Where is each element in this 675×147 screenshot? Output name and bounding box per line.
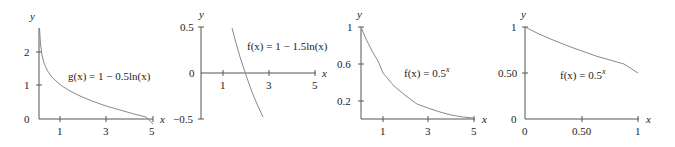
function-annotation: f(x) = 1 − 1.5ln(x) — [247, 40, 328, 53]
y-axis-label: y — [520, 8, 526, 20]
x-tick-label: 3 — [103, 125, 109, 137]
function-annotation: f(x) = 0.5x — [560, 67, 606, 82]
y-tick-label: 0.50 — [498, 67, 518, 79]
function-curve — [525, 27, 638, 73]
x-tick-label: 1 — [380, 125, 386, 137]
charts-canvas: y x 2 1 0 1 3 5 g(x) = 1 − 0.5ln(x) y x … — [0, 0, 675, 147]
x-axis-label: x — [645, 113, 651, 125]
y-tick-label: −0.5 — [173, 113, 193, 125]
y-tick-label: 1 — [347, 21, 353, 33]
x-tick-label: 1 — [635, 125, 641, 137]
y-tick-label: 1 — [24, 79, 30, 91]
chart-g-log: y x 2 1 0 1 3 5 g(x) = 1 − 0.5ln(x) — [24, 10, 165, 137]
y-tick-label: 0.5 — [180, 21, 194, 33]
x-axis-label: x — [481, 113, 487, 125]
x-tick-label: 5 — [312, 79, 318, 91]
x-axis-label: x — [159, 113, 165, 125]
chart-exp-wide: y x 1 0.6 0.2 1 3 5 f(x) = 0.5x — [337, 8, 487, 137]
x-tick-label: 3 — [425, 125, 431, 137]
x-axis-label: x — [321, 67, 327, 79]
y-axis-label: y — [198, 8, 204, 20]
y-tick-label: 0.2 — [337, 95, 351, 107]
y-tick-label: 0 — [24, 113, 30, 125]
function-annotation: g(x) = 1 − 0.5ln(x) — [68, 70, 151, 83]
function-annotation: f(x) = 0.5x — [404, 65, 450, 80]
x-tick-label: 0 — [522, 125, 528, 137]
y-tick-label: 0.6 — [337, 58, 351, 70]
y-tick-label: 2 — [24, 46, 30, 58]
y-tick-label: 0 — [511, 113, 517, 125]
x-tick-label: 5 — [471, 125, 477, 137]
x-tick-label: 3 — [266, 79, 272, 91]
x-tick-label: 5 — [149, 125, 155, 137]
y-axis-label: y — [356, 8, 362, 20]
x-tick-label: 1 — [57, 125, 63, 137]
x-tick-label: 1 — [220, 79, 226, 91]
y-axis-label: y — [29, 10, 35, 22]
y-tick-label: 1 — [511, 21, 517, 33]
chart-exp-narrow: y x 1 0.50 0 0 0.50 1 f(x) = 0.5x — [498, 8, 651, 137]
y-tick-label: 0 — [189, 67, 195, 79]
x-tick-label: 0.50 — [572, 125, 592, 137]
chart-f-log: y x 0.5 0 −0.5 1 3 5 f(x) = 1 − 1.5ln(x) — [173, 8, 328, 125]
